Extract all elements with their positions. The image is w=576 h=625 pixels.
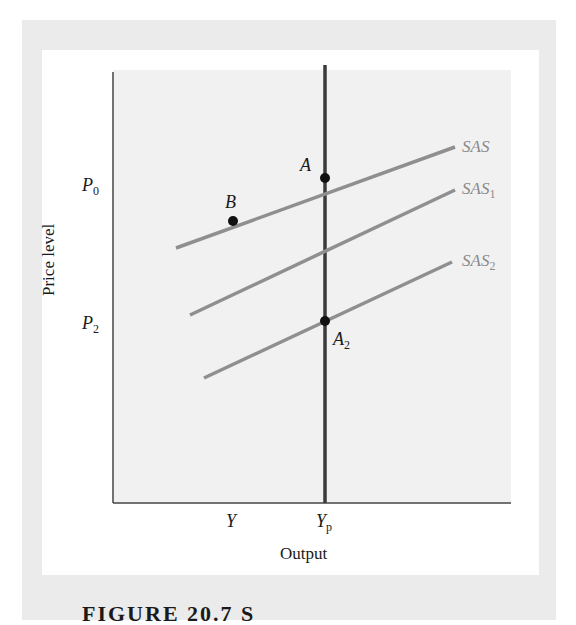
sas-curve	[176, 147, 455, 248]
point-a2	[320, 316, 330, 326]
point-b	[228, 216, 238, 226]
point-a	[320, 173, 330, 183]
figure-caption: FIGURE 20.7 S	[82, 603, 255, 625]
x-tick-yp: Yp	[316, 512, 332, 533]
x-tick-y: Y	[226, 512, 236, 533]
point-b-label: B	[225, 193, 236, 214]
y-tick-p0: P0	[82, 176, 99, 197]
point-a2-label: A2	[333, 330, 350, 351]
point-a-label: A	[300, 156, 311, 177]
x-axis-title: Output	[280, 545, 327, 562]
sas1-label: SAS1	[462, 180, 495, 200]
y-axis-title: Price level	[40, 224, 57, 296]
sas2-label: SAS2	[462, 252, 495, 272]
y-tick-p2: P2	[82, 314, 99, 335]
sas-label: SAS	[462, 138, 489, 158]
